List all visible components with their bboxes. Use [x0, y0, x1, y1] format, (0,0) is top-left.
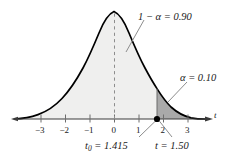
- alpha-level-label: α = 0.10: [180, 73, 216, 84]
- x-axis-right-arrow: [205, 116, 213, 121]
- x-tick-label--1: −1: [84, 126, 94, 135]
- x-tick-label--3: −3: [35, 126, 45, 135]
- alpha-leader-line: [168, 82, 187, 102]
- t0-point-marker: [154, 116, 160, 122]
- x-tick-label-3: 3: [185, 126, 190, 135]
- confidence-level-label: 1 − α = 0.90: [138, 12, 192, 23]
- x-tick-label-0: 0: [112, 126, 117, 135]
- x-tick-label--2: −2: [60, 126, 70, 135]
- test-statistic-caption: t = 1.50: [155, 141, 189, 152]
- x-tick-label-1: 1: [136, 126, 141, 135]
- t-distribution-figure: 1 − α = 0.90 α = 0.10 −3 −2 −1 0 1 2 3 t…: [0, 0, 232, 162]
- x-tick-label-2: 2: [161, 126, 166, 135]
- acceptance-region-fill: [15, 12, 158, 120]
- critical-value-caption: t0 = 1.415: [85, 141, 128, 152]
- x-axis-left-arrow: [11, 117, 18, 122]
- t0-leader-line: [139, 120, 157, 137]
- critical-value-value: = 1.415: [92, 140, 128, 151]
- x-axis-variable-label: t: [214, 111, 217, 120]
